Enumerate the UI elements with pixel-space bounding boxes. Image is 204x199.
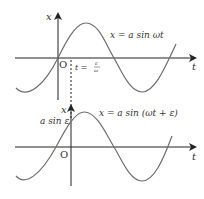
t-marker-numerator: ε	[95, 60, 98, 66]
bottom-t-axis-label: t	[192, 151, 197, 162]
bottom-origin-label: O	[60, 149, 68, 160]
top-graph: x t O x = a sin ωt t = ε ω	[15, 11, 197, 100]
intercept-label: a sin ε	[40, 116, 69, 126]
bottom-graph: x t O x = a sin (ωt + ε) a sin ε	[15, 104, 197, 186]
t-marker-denominator: ω	[94, 67, 98, 73]
bottom-y-axis-label: x	[61, 104, 67, 115]
phase-shift-diagram: x t O x = a sin ωt t = ε ω x t O x = a s…	[0, 0, 204, 199]
t-marker-label: t =	[75, 63, 87, 72]
bottom-equation: x = a sin (ωt + ε)	[99, 108, 178, 118]
top-equation: x = a sin ωt	[110, 30, 164, 40]
top-y-axis-label: x	[46, 11, 52, 22]
top-t-axis-label: t	[192, 61, 197, 72]
top-origin-label: O	[59, 59, 67, 70]
